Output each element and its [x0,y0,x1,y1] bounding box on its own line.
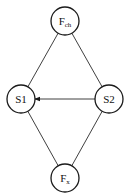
edge-fch-s1 [28,33,58,87]
node-label: S1 [15,93,27,105]
edges-layer [28,33,102,166]
diagram-canvas: FchS1S2Fx [0,0,130,196]
node-label: S2 [103,93,115,105]
node-fch: Fch [51,7,79,35]
edge-fx-s2 [72,111,102,166]
node-s2: S2 [95,85,123,113]
nodes-layer: FchS1S2Fx [7,7,123,192]
edge-fch-s2 [72,33,102,87]
node-s1: S1 [7,85,35,113]
node-fx: Fx [51,164,79,192]
edge-fx-s1 [28,111,58,166]
